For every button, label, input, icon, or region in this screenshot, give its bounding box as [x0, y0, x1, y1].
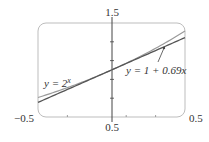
annotation-exp: y = 2x	[43, 76, 71, 89]
annotation-linear: y = 1 + 0.69x	[125, 64, 186, 76]
tick-label-x-left: −0.5	[14, 112, 34, 124]
annotation-exp-base: y = 2	[43, 77, 68, 89]
tick-label-y-bottom: 0.5	[105, 121, 119, 133]
chart: 1.5 0.5 −0.5 0.5 y = 2x y = 1 + 0.69x	[0, 0, 209, 142]
annotation-leader-line	[158, 48, 164, 62]
annotation-exp-superscript: x	[66, 76, 71, 85]
annotation-leader-dot	[163, 47, 165, 49]
tick-label-y-top: 1.5	[105, 6, 119, 18]
tick-label-x-right: 0.5	[189, 112, 203, 124]
